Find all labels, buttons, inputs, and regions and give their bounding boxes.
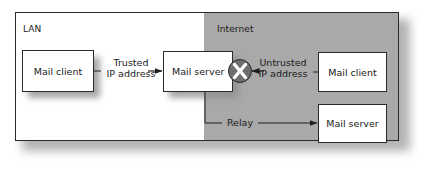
internet-mail-server-label: Mail server [326, 118, 378, 129]
lan-region-label: LAN [23, 24, 41, 34]
relay-edge-label: Relay [225, 118, 255, 129]
untrusted-label-line1: Untrusted [255, 58, 311, 69]
lan-mail-server-node: Mail server [163, 51, 233, 92]
untrusted-label-line2: IP address [255, 69, 311, 80]
diagram-canvas: LAN Internet Mail client Mail server Mai… [0, 0, 422, 172]
trusted-label-line2: IP address [103, 69, 159, 80]
internet-mail-client-label: Mail client [328, 67, 376, 78]
lan-mail-server-label: Mail server [172, 66, 224, 77]
relay-label: Relay [227, 117, 253, 128]
internet-mail-server-node: Mail server [318, 104, 387, 143]
lan-mail-client-label: Mail client [34, 66, 82, 77]
untrusted-edge-label: Untrusted IP address [255, 58, 311, 79]
lan-mail-client-node: Mail client [22, 50, 94, 92]
trusted-label-line1: Trusted [103, 58, 159, 69]
internet-mail-client-node: Mail client [318, 52, 387, 92]
internet-region-label: Internet [217, 24, 254, 34]
trusted-edge-label: Trusted IP address [103, 58, 159, 79]
